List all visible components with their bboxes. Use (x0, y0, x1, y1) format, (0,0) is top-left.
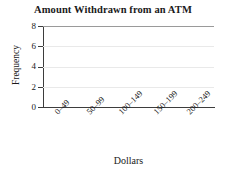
x-axis-label: Dollars (43, 155, 214, 166)
series-layer (43, 26, 214, 107)
y-tick-label: 6 (6, 42, 36, 51)
y-tick-label: 0 (6, 103, 36, 112)
plot-area (43, 26, 214, 107)
y-tick-label: 8 (6, 22, 36, 31)
chart-figure: Amount Withdrawn from an ATM Frequency 8… (0, 0, 226, 179)
y-tick-label: 2 (6, 83, 36, 92)
y-axis-tick-labels: 8 6 4 2 0 (0, 0, 36, 179)
y-tick-label: 4 (6, 62, 36, 71)
